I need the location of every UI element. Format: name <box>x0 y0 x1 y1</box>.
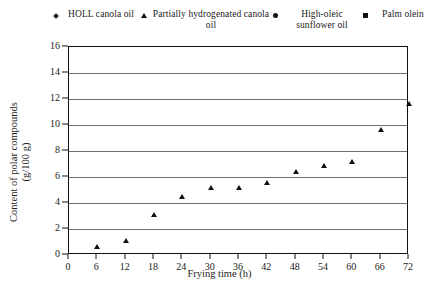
gridline <box>69 229 407 230</box>
triangle-marker-icon <box>208 168 214 190</box>
data-point <box>378 110 384 128</box>
legend-label: HOLL canola oil <box>62 9 140 20</box>
chart-legend: HOLL canola oil Partially hydrogenated c… <box>52 9 434 37</box>
legend-item-high-oleic-sunflower-oil: High-oleic sunflower oil <box>272 9 362 30</box>
data-point <box>94 227 100 245</box>
y-axis-title: Content of polar compounds (g/100 g) <box>8 62 32 262</box>
x-axis-tick-mark <box>294 254 295 259</box>
y-axis-tick-label: 16 <box>0 41 60 51</box>
triangle-marker-icon <box>264 163 270 185</box>
x-axis-tick-mark <box>209 254 210 259</box>
gridline <box>69 73 407 74</box>
square-marker-icon <box>362 10 369 21</box>
data-point <box>293 152 299 170</box>
x-axis-tick-mark <box>379 254 380 259</box>
x-axis-tick-mark <box>181 254 182 259</box>
legend-label: Partially hydrogenated canola oil <box>150 9 272 30</box>
triangle-marker-icon <box>140 10 147 21</box>
triangle-marker-icon <box>349 142 355 164</box>
triangle-marker-icon <box>236 168 242 190</box>
gridline <box>69 203 407 204</box>
gridline <box>69 151 407 152</box>
triangle-marker-icon <box>151 195 157 217</box>
data-point <box>264 163 270 181</box>
legend-item-palm-olein: Palm olein <box>362 9 434 21</box>
triangle-marker-icon <box>321 146 327 168</box>
triangle-marker-icon <box>406 84 412 106</box>
legend-item-partially-hydrogenated-canola-oil: Partially hydrogenated canola oil <box>140 9 272 30</box>
x-axis-tick-mark <box>408 254 409 259</box>
x-axis-tick-mark <box>351 254 352 259</box>
x-axis-tick-mark <box>153 254 154 259</box>
x-axis-tick-mark <box>96 254 97 259</box>
x-axis-title: Frying time (h) <box>0 268 439 279</box>
x-axis-tick-mark <box>124 254 125 259</box>
data-point <box>123 221 129 239</box>
data-point <box>151 195 157 213</box>
triangle-marker-icon <box>378 110 384 132</box>
circle-marker-icon <box>272 10 279 21</box>
legend-label: High-oleic sunflower oil <box>282 9 362 30</box>
data-point <box>236 168 242 186</box>
plot-area <box>68 46 408 254</box>
triangle-marker-icon <box>94 227 100 249</box>
y-axis-title-line2: (g/100 g) <box>20 62 32 262</box>
x-axis-tick-mark <box>266 254 267 259</box>
scatter-chart-figure: HOLL canola oil Partially hydrogenated c… <box>0 0 439 295</box>
y-axis-title-line1: Content of polar compounds <box>8 102 19 222</box>
x-axis-tick-mark <box>68 254 69 259</box>
data-point <box>208 168 214 186</box>
data-point <box>179 177 185 195</box>
triangle-marker-icon <box>123 221 129 243</box>
legend-label: Palm olein <box>372 9 434 20</box>
x-axis-tick-mark <box>323 254 324 259</box>
gridline <box>69 125 407 126</box>
triangle-marker-icon <box>179 177 185 199</box>
data-point <box>406 84 412 102</box>
x-axis-tick-mark <box>238 254 239 259</box>
triangle-marker-icon <box>293 152 299 174</box>
gridline <box>69 99 407 100</box>
data-point <box>349 142 355 160</box>
data-point <box>321 146 327 164</box>
